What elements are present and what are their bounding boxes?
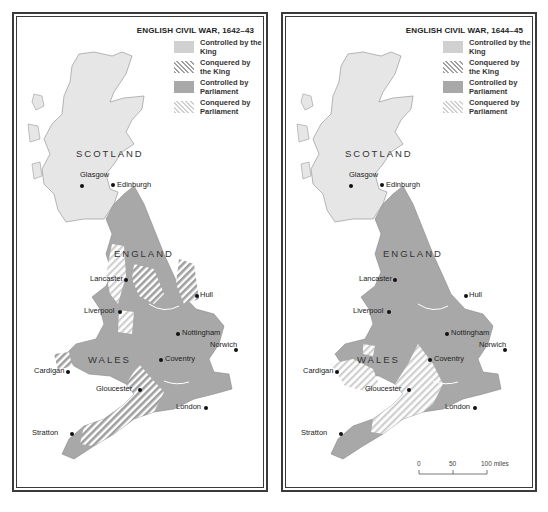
city-hull: Hull [200,290,213,299]
city-dot-glasgow [349,184,353,188]
swatch-conquered-parliament [174,101,194,113]
city-dot-edinburgh [111,183,115,187]
city-dot-gloucester [138,388,142,392]
region-england [62,186,232,459]
city-gloucester: Gloucester [96,384,132,393]
city-dot-nottingham [445,332,449,336]
city-edinburgh: Edinburgh [117,180,151,189]
city-lancaster: Lancaster [90,274,123,283]
legend-item-conquered-parliament: Conquered by Parliament [443,99,535,118]
map-title: ENGLISH CIVIL WAR, 1644–45 [406,26,523,35]
city-dot-cardigan [66,370,70,374]
city-dot-coventry [159,358,163,362]
city-nottingham: Nottingham [451,328,489,337]
city-dot-lancaster [124,278,128,282]
city-stratton: Stratton [32,428,58,437]
legend-item-conquered-king: Conquered by the King [443,59,535,78]
legend: Controlled by the King Conquered by the … [443,39,535,119]
city-dot-nottingham [176,332,180,336]
label-wales: WALES [88,354,131,365]
scale-label-50: 50 [449,460,456,467]
city-norwich: Norwich [210,340,237,349]
scale-label-0: 0 [417,460,421,467]
label-scotland: SCOTLAND [345,148,413,159]
swatch-conquered-king [174,61,194,73]
city-dot-glasgow [80,184,84,188]
city-cardigan: Cardigan [303,366,333,375]
swatch-controlled-king [443,41,463,53]
swatch-conquered-king [443,61,463,73]
city-lancaster: Lancaster [359,274,392,283]
city-dot-stratton [339,432,343,436]
city-hull: Hull [469,290,482,299]
city-dot-gloucester [407,388,411,392]
city-dot-stratton [70,432,74,436]
city-london: London [445,402,470,411]
swatch-controlled-parliament [174,81,194,93]
city-dot-edinburgh [380,183,384,187]
map-panel-1642-43: ENGLISH CIVIL WAR, 1642–43 Controlled by… [12,12,268,492]
label-england: ENGLAND [383,248,443,259]
city-coventry: Coventry [165,354,195,363]
scale-bar: 0 50 100 miles [417,460,527,480]
legend-item-controlled-parliament: Controlled by Parliament [174,79,266,98]
legend-item-conquered-parliament: Conquered by Parliament [174,99,266,118]
city-glasgow: Glasgow [80,170,109,179]
city-norwich: Norwich [479,340,506,349]
city-dot-hull [195,294,199,298]
city-stratton: Stratton [301,428,327,437]
label-england: ENGLAND [114,248,174,259]
map-panel-1644-45: ENGLISH CIVIL WAR, 1644–45 Controlled by… [281,12,537,492]
legend-item-controlled-king: Controlled by the King [174,39,266,58]
city-dot-coventry [428,358,432,362]
swatch-controlled-king [174,41,194,53]
legend: Controlled by the King Conquered by the … [174,39,266,119]
city-liverpool: Liverpool [353,306,383,315]
city-gloucester: Gloucester [365,384,401,393]
city-london: London [176,402,201,411]
swatch-conquered-parliament [443,101,463,113]
swatch-controlled-parliament [443,81,463,93]
city-cardigan: Cardigan [34,366,64,375]
legend-item-controlled-king: Controlled by the King [443,39,535,58]
legend-item-controlled-parliament: Controlled by Parliament [443,79,535,98]
city-glasgow: Glasgow [349,170,378,179]
label-scotland: SCOTLAND [76,148,144,159]
city-dot-liverpool [387,310,391,314]
city-nottingham: Nottingham [182,328,220,337]
city-dot-hull [464,294,468,298]
label-wales: WALES [357,354,400,365]
city-liverpool: Liverpool [84,306,114,315]
city-coventry: Coventry [434,354,464,363]
city-dot-lancaster [393,278,397,282]
city-dot-london [204,406,208,410]
scale-label-100: 100 miles [481,460,509,467]
legend-item-conquered-king: Conquered by the King [174,59,266,78]
city-dot-liverpool [118,310,122,314]
city-dot-london [473,406,477,410]
region-england [331,186,501,459]
city-edinburgh: Edinburgh [386,180,420,189]
map-title: ENGLISH CIVIL WAR, 1642–43 [137,26,254,35]
city-dot-cardigan [335,370,339,374]
